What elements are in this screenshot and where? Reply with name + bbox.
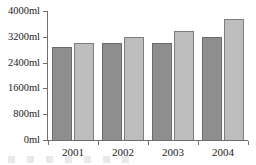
bar-2001-series-2 bbox=[74, 43, 94, 140]
bar-2003-series-2 bbox=[174, 31, 194, 140]
x-axis-tick-label: 2003 bbox=[162, 146, 184, 158]
x-axis-tick bbox=[148, 141, 149, 145]
scan-artifact bbox=[8, 156, 138, 163]
y-axis-tick-label: 2400ml bbox=[8, 58, 40, 69]
y-axis-tick-label: 0ml bbox=[24, 135, 40, 146]
bar-2002-series-2 bbox=[124, 37, 144, 140]
bar-2003-series-1 bbox=[152, 43, 172, 140]
bar-2004-series-2 bbox=[224, 19, 244, 140]
bar-chart: 0ml800ml1600ml2400ml3200ml4000ml 2001200… bbox=[0, 0, 256, 165]
y-axis-tick-label: 3200ml bbox=[8, 32, 40, 43]
y-axis-tick-label: 4000ml bbox=[8, 6, 40, 17]
bar-2004-series-1 bbox=[202, 37, 222, 140]
x-axis-tick bbox=[198, 141, 199, 145]
bar-2002-series-1 bbox=[102, 43, 122, 140]
x-axis-tick bbox=[48, 141, 49, 145]
plot-area bbox=[48, 11, 248, 140]
y-axis-tick-label: 1600ml bbox=[8, 83, 40, 94]
bar-2001-series-1 bbox=[52, 47, 72, 140]
x-axis-tick-label: 2004 bbox=[212, 146, 234, 158]
y-axis-tick-label: 800ml bbox=[13, 109, 40, 120]
x-axis-tick bbox=[248, 141, 249, 145]
x-axis-tick bbox=[98, 141, 99, 145]
